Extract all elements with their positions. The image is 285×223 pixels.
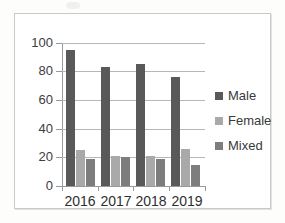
bar-2018-mixed [156, 159, 165, 186]
bar-2017-male [101, 67, 110, 186]
legend-entry-male: Male [215, 83, 283, 108]
legend-entry-female: Female [215, 108, 283, 133]
y-axis-label-20: 20 [39, 150, 53, 163]
x-axis-label-2019: 2019 [169, 194, 205, 208]
legend-label-mixed: Mixed [228, 139, 263, 152]
x-tick-3 [169, 186, 170, 191]
bar-chart: 100 80 60 40 20 0 [14, 13, 271, 209]
category-axis-line [62, 186, 206, 187]
chart-legend: Male Female Mixed [215, 83, 283, 158]
bar-2016-mixed [86, 159, 95, 186]
legend-swatch-male-icon [215, 92, 223, 100]
bar-group-2017 [101, 43, 133, 186]
x-tick-1 [98, 186, 99, 191]
y-axis-label-100: 100 [31, 36, 53, 49]
bar-2017-mixed [121, 157, 130, 186]
x-axis-label-2016: 2016 [62, 194, 98, 208]
bar-2019-female [181, 149, 190, 186]
legend-swatch-mixed-icon [215, 142, 223, 150]
bar-2018-female [146, 156, 155, 186]
scan-artifact [66, 2, 80, 9]
x-tick-2 [133, 186, 134, 191]
y-axis-labels: 100 80 60 40 20 0 [15, 14, 53, 210]
plot-area [62, 43, 205, 186]
bar-group-2016 [66, 43, 98, 186]
bar-group-2018 [136, 43, 168, 186]
bar-group-2019 [171, 43, 203, 186]
bar-2018-male [136, 64, 145, 186]
bar-2016-female [76, 150, 85, 186]
bar-2019-mixed [191, 165, 200, 186]
legend-entry-mixed: Mixed [215, 133, 283, 158]
bar-2019-male [171, 77, 180, 186]
y-axis-label-0: 0 [46, 179, 53, 192]
y-axis-label-40: 40 [39, 122, 53, 135]
legend-label-male: Male [228, 89, 256, 102]
legend-swatch-female-icon [215, 117, 223, 125]
x-tick-4 [205, 186, 206, 191]
x-axis-label-2018: 2018 [133, 194, 169, 208]
bar-2017-female [111, 156, 120, 186]
chart-figure: 100 80 60 40 20 0 [0, 0, 285, 223]
x-tick-0 [62, 186, 63, 191]
legend-label-female: Female [228, 114, 271, 127]
y-axis-label-60: 60 [39, 93, 53, 106]
x-axis-label-2017: 2017 [98, 194, 134, 208]
bar-2016-male [66, 50, 75, 186]
y-axis-label-80: 80 [39, 64, 53, 77]
